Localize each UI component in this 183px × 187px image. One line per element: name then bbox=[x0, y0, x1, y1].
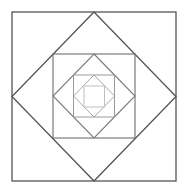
nested-squares-diagram bbox=[0, 0, 183, 187]
background bbox=[0, 0, 183, 187]
